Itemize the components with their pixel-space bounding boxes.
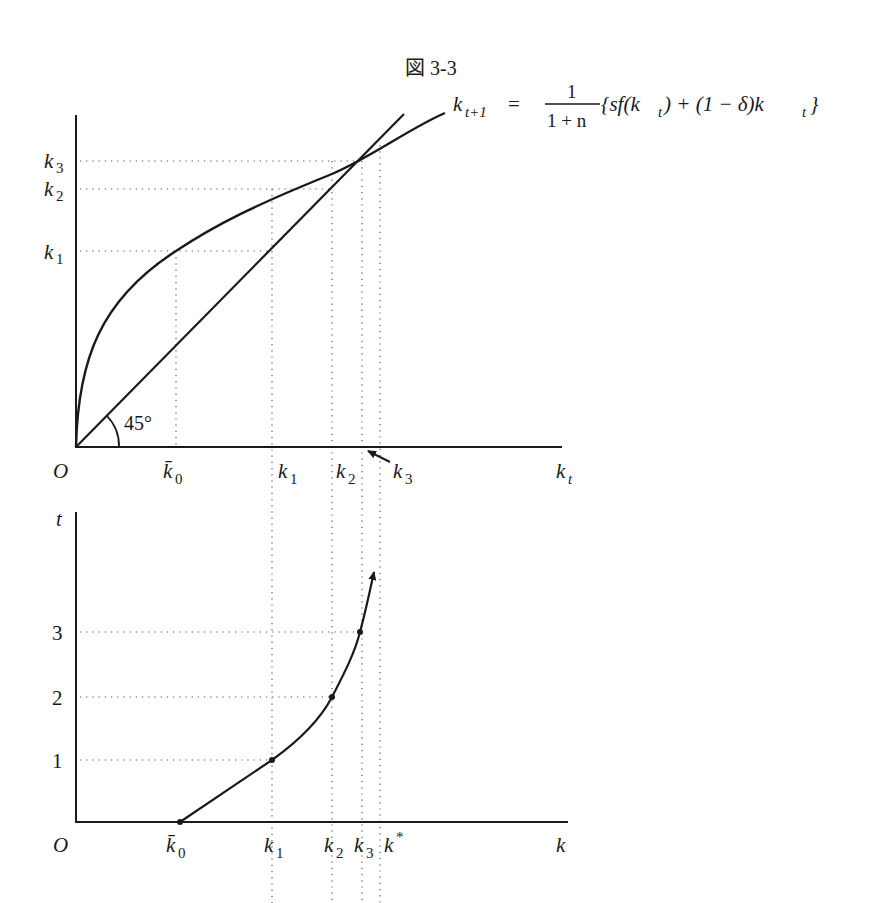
lower-panel: t 1 2 3 O k̄ 0 k 1 k 2 k 3 k * k [52, 507, 568, 861]
y-tick-2: 2 [52, 686, 63, 710]
svg-text:t: t [658, 104, 663, 120]
time-path-curve [180, 572, 374, 822]
lower-x-tick-k2: k [324, 833, 334, 857]
svg-text:}: } [810, 92, 819, 116]
svg-text:3: 3 [405, 471, 413, 487]
y-tick-k3: k [44, 149, 54, 173]
angle-arc [107, 416, 119, 447]
point-t2 [329, 694, 335, 700]
figure-canvas: 図 3-3 k t+1 = 1 1 + n {sf(k t ) + (1 − δ… [0, 0, 879, 903]
svg-text:3: 3 [366, 845, 374, 861]
svg-text:1: 1 [276, 845, 284, 861]
svg-text:2: 2 [336, 845, 344, 861]
x-tick-k3: k [393, 459, 403, 483]
svg-text:1: 1 [290, 471, 298, 487]
svg-text:1 + n: 1 + n [547, 110, 587, 131]
svg-text:2: 2 [56, 188, 64, 204]
svg-text:1: 1 [56, 251, 64, 267]
lower-x-tick-k3: k [354, 833, 364, 857]
x-tick-k0bar: k̄ [163, 459, 173, 483]
upper-panel: 45° k 1 k 2 k 3 O k̄ 0 k 1 k 2 k 3 k t [44, 113, 573, 903]
svg-text:*: * [396, 829, 404, 845]
lower-x-tick-kstar: k [384, 833, 394, 857]
angle-label: 45° [124, 412, 152, 434]
svg-text:) + (1 − δ)k: ) + (1 − δ)k [663, 92, 765, 116]
lower-guides [80, 632, 360, 760]
svg-text:{sf(k: {sf(k [601, 92, 640, 116]
upper-origin-label: O [53, 459, 68, 483]
y-tick-k1: k [44, 240, 54, 264]
y-tick-1: 1 [52, 749, 63, 773]
x-tick-k1: k [278, 459, 288, 483]
lower-y-axis-label: t [56, 507, 63, 531]
svg-text:0: 0 [175, 471, 183, 487]
svg-text:t: t [802, 104, 807, 120]
upper-x-axis-label: k [556, 459, 566, 483]
lower-x-tick-k1: k [264, 833, 274, 857]
lower-x-tick-k0bar: k̄ [166, 833, 176, 857]
svg-text:1: 1 [567, 81, 577, 102]
equation-label: k t+1 = 1 1 + n {sf(k t ) + (1 − δ)k t } [453, 81, 819, 131]
y-tick-k2: k [44, 177, 54, 201]
svg-text:0: 0 [178, 845, 186, 861]
lower-origin-label: O [53, 833, 68, 857]
svg-text:t+1: t+1 [465, 104, 487, 120]
point-t3 [357, 629, 363, 635]
svg-text:t: t [568, 471, 573, 487]
lower-x-axis-label: k [556, 833, 566, 857]
transition-curve [76, 113, 445, 447]
figure-title: 図 3-3 [405, 57, 457, 79]
point-t1 [269, 757, 275, 763]
point-t0 [177, 819, 183, 825]
svg-text:=: = [508, 92, 520, 116]
svg-text:k: k [453, 92, 463, 116]
svg-text:3: 3 [56, 160, 64, 176]
y-tick-3: 3 [52, 621, 63, 645]
pointer-arrow-icon [368, 451, 390, 462]
svg-text:2: 2 [348, 471, 356, 487]
x-tick-k2: k [336, 459, 346, 483]
